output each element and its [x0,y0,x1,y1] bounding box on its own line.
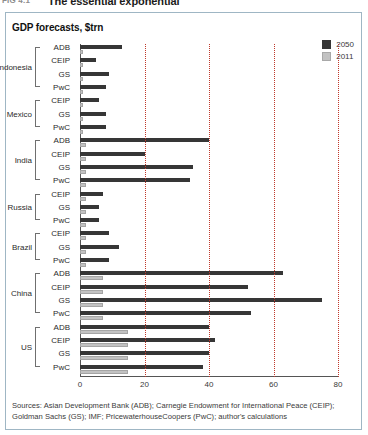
bar-2050 [80,271,283,275]
source-label-adb: ADB [54,323,70,332]
bar-2011 [80,210,86,214]
bar-2050 [80,311,251,315]
x-tick-80: 80 [334,380,343,389]
x-tick-0: 0 [78,380,82,389]
source-label-pwc: PwC [53,216,70,225]
bar-2011 [80,290,103,294]
group-label-us: US [21,342,32,351]
bar-2050 [80,338,215,342]
source-label-gs: GS [58,110,70,119]
bar-2050 [80,58,96,62]
bar-2011 [80,197,86,201]
group-bracket [35,100,40,127]
bar-2050 [80,178,190,182]
source-label-column: ADBCEIPGSPwCIndonesiaCEIPGSPwCMexicoADBC… [0,44,80,377]
figure-number: FIG 4.1 [2,0,30,5]
x-tick-40: 40 [205,380,214,389]
group-label-china: China [11,289,32,298]
bar-2011 [80,370,128,374]
bar-2011 [80,117,83,121]
group-bracket [35,194,40,221]
bar-2050 [80,258,109,262]
bar-2050 [80,205,99,209]
source-label-gs: GS [58,203,70,212]
group-bracket [35,233,40,260]
bar-2050 [80,45,122,49]
source-label-pwc: PwC [53,256,70,265]
bar-2050 [80,112,106,116]
bar-2011 [80,90,83,94]
figure-headline: FIG 4.1 The essential exponential [0,0,368,12]
source-label-ceip: CEIP [51,150,70,159]
group-bracket [35,140,40,180]
bar-2011 [80,63,83,67]
plot-area [80,44,338,377]
bar-2011 [80,170,86,174]
gridline-60 [274,44,275,377]
group-label-mexico: Mexico [7,109,32,118]
x-tick-60: 60 [269,380,278,389]
bar-2050 [80,365,203,369]
source-label-gs: GS [58,70,70,79]
bar-2011 [80,50,83,54]
source-label-ceip: CEIP [51,336,70,345]
source-label-pwc: PwC [53,83,70,92]
bar-2011 [80,316,103,320]
bar-2011 [80,157,86,161]
bar-2050 [80,231,109,235]
bar-2050 [80,165,193,169]
source-label-pwc: PwC [53,309,70,318]
bar-2011 [80,103,83,107]
group-bracket [35,273,40,313]
source-label-adb: ADB [54,136,70,145]
bar-2011 [80,130,83,134]
bar-2050 [80,125,106,129]
figure-title: The essential exponential [48,0,179,7]
bar-2011 [80,330,128,334]
source-label-ceip: CEIP [51,96,70,105]
source-label-ceip: CEIP [51,190,70,199]
source-label-pwc: PwC [53,176,70,185]
bar-2050 [80,192,103,196]
group-bracket [35,327,40,367]
bar-2050 [80,152,145,156]
bar-2050 [80,245,119,249]
source-label-pwc: PwC [53,123,70,132]
source-label-adb: ADB [54,43,70,52]
bar-2011 [80,343,128,347]
source-label-ceip: CEIP [51,229,70,238]
bar-2011 [80,143,86,147]
bar-2011 [80,263,86,267]
gridline-20 [145,44,146,377]
bar-2050 [80,85,106,89]
group-label-brazil: Brazil [12,242,32,251]
group-label-indonesia: Indonesia [0,62,32,71]
group-label-russia: Russia [8,202,32,211]
source-label-gs: GS [58,243,70,252]
source-label-pwc: PwC [53,363,70,372]
source-label-gs: GS [58,163,70,172]
bar-2011 [80,303,103,307]
bar-2011 [80,77,83,81]
source-label-gs: GS [58,349,70,358]
gridline-80 [338,44,339,377]
group-label-india: India [15,156,32,165]
chart-page: FIG 4.1 The essential exponential GDP fo… [0,0,368,435]
bar-2011 [80,223,86,227]
source-label-gs: GS [58,296,70,305]
bar-2050 [80,285,248,289]
source-label-adb: ADB [54,269,70,278]
bar-2050 [80,72,109,76]
bar-2050 [80,98,99,102]
bar-2011 [80,356,128,360]
bar-2011 [80,276,103,280]
group-bracket [35,47,40,87]
chart-title: GDP forecasts, $trn [12,22,103,33]
bar-2050 [80,298,322,302]
x-axis-tick-labels: 020406080 [80,380,338,392]
gridline-40 [209,44,210,377]
bar-2011 [80,183,86,187]
bar-2011 [80,236,86,240]
source-label-ceip: CEIP [51,283,70,292]
x-tick-20: 20 [140,380,149,389]
